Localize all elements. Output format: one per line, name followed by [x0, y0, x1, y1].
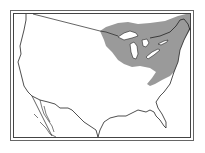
- range-map: [0, 0, 205, 153]
- mexico-coast: [34, 114, 56, 137]
- us-map-svg: [0, 0, 205, 153]
